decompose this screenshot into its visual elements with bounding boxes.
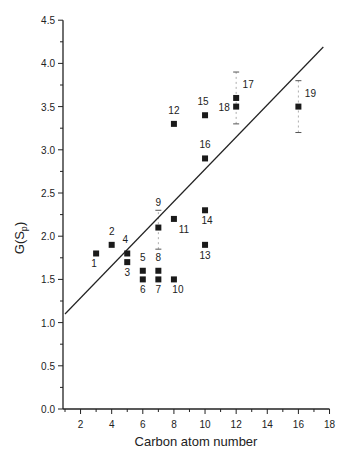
error-bars: [155, 72, 301, 249]
data-point-label: 11: [179, 224, 190, 235]
x-tick-label: 18: [324, 419, 336, 430]
x-tick-label: 8: [171, 419, 177, 430]
y-tick-label: 2.5: [41, 188, 55, 199]
y-tick-label: 1.5: [41, 274, 55, 285]
data-point-marker: [171, 276, 177, 282]
data-point-label: 17: [243, 79, 255, 90]
x-tick-label: 4: [109, 419, 115, 430]
data-point-label: 9: [156, 197, 162, 208]
data-point-label: 8: [156, 252, 162, 263]
x-axis-label: Carbon atom number: [135, 434, 259, 449]
y-axis-ticks: 0.00.51.01.52.02.53.03.54.04.5: [41, 15, 63, 415]
data-point-label: 4: [122, 234, 128, 245]
data-point-marker: [140, 276, 146, 282]
data-point-label: 14: [201, 215, 213, 226]
y-tick-label: 3.0: [41, 145, 55, 156]
data-point-marker: [124, 259, 130, 265]
data-point-marker: [295, 104, 301, 110]
x-tick-label: 12: [231, 419, 243, 430]
data-point-marker: [155, 276, 161, 282]
data-point-marker: [233, 104, 239, 110]
data-point-marker: [171, 216, 177, 222]
data-point-marker: [93, 250, 99, 256]
y-tick-label: 4.5: [41, 15, 55, 26]
scatter-chart: 0.00.51.01.52.02.53.03.54.04.5 246810121…: [0, 0, 352, 460]
data-point-label: 3: [124, 267, 130, 278]
data-point-label: 19: [305, 88, 317, 99]
regression-line: [65, 47, 323, 314]
data-point-marker: [171, 121, 177, 127]
data-point-marker: [155, 268, 161, 274]
x-tick-label: 14: [262, 419, 274, 430]
data-point-label: 6: [140, 284, 146, 295]
y-tick-label: 0.0: [41, 404, 55, 415]
data-point-marker: [124, 250, 130, 256]
data-point-marker: [202, 207, 208, 213]
data-point-label: 5: [140, 252, 146, 263]
data-point-marker: [155, 225, 161, 231]
y-tick-label: 3.5: [41, 102, 55, 113]
y-tick-label: 0.5: [41, 361, 55, 372]
x-tick-label: 16: [293, 419, 305, 430]
y-axis-label: G(Sp): [12, 222, 29, 254]
data-point-label: 16: [199, 139, 211, 150]
data-point-label: 15: [197, 96, 209, 107]
data-point-marker: [202, 155, 208, 161]
data-point-label: 13: [199, 250, 211, 261]
data-point-marker: [140, 268, 146, 274]
axes: [63, 20, 330, 409]
y-tick-label: 1.0: [41, 318, 55, 329]
x-tick-label: 2: [78, 419, 84, 430]
data-point-marker: [109, 242, 115, 248]
data-point-label: 7: [156, 284, 162, 295]
svg-text:G(Sp): G(Sp): [12, 222, 29, 254]
x-tick-label: 6: [140, 419, 146, 430]
data-point-label: 10: [172, 284, 184, 295]
x-tick-label: 10: [199, 419, 211, 430]
data-point-label: 1: [91, 258, 97, 269]
data-point-marker: [202, 242, 208, 248]
fit-line: [65, 47, 323, 314]
data-point-label: 18: [219, 102, 231, 113]
data-point-marker: [202, 112, 208, 118]
data-points: 12345678910111213141516171819: [91, 79, 316, 295]
data-point-label: 2: [109, 226, 115, 237]
y-tick-label: 4.0: [41, 58, 55, 69]
y-tick-label: 2.0: [41, 231, 55, 242]
data-point-label: 12: [168, 105, 180, 116]
data-point-marker: [233, 95, 239, 101]
x-axis-ticks: 24681012141618: [65, 409, 336, 430]
